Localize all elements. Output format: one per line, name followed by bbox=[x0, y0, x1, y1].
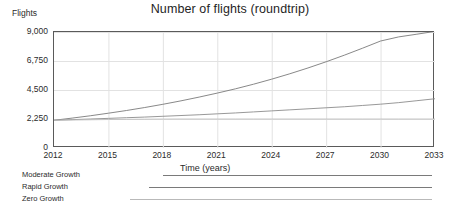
x-axis-tick: 2033 bbox=[414, 150, 454, 160]
x-axis-tick: 2021 bbox=[196, 150, 236, 160]
legend-row[interactable]: Rapid Growth bbox=[0, 182, 457, 194]
legend-label: Zero Growth bbox=[22, 194, 64, 204]
y-axis-title: Flights bbox=[12, 8, 37, 18]
series-line bbox=[54, 99, 435, 121]
y-axis-tick: 6,750 bbox=[2, 55, 48, 65]
y-axis-tick: 2,250 bbox=[2, 113, 48, 123]
x-axis-tick: 2030 bbox=[360, 150, 400, 160]
plot-area bbox=[53, 31, 434, 147]
legend-line-sample bbox=[130, 199, 432, 200]
legend-label: Moderate Growth bbox=[22, 170, 80, 180]
y-axis-tick: 9,000 bbox=[2, 26, 48, 36]
legend-line-sample bbox=[163, 175, 432, 176]
x-axis-tick: 2024 bbox=[251, 150, 291, 160]
y-axis-tick: 4,500 bbox=[2, 84, 48, 94]
x-axis-tick: 2015 bbox=[87, 150, 127, 160]
x-axis-tick: 2027 bbox=[305, 150, 345, 160]
legend-row[interactable]: Zero Growth bbox=[0, 194, 457, 206]
series-lines bbox=[54, 32, 435, 148]
x-axis-tick: 2012 bbox=[33, 150, 73, 160]
chart-legend: Moderate GrowthRapid GrowthZero Growth bbox=[0, 170, 457, 214]
series-line bbox=[54, 119, 435, 120]
legend-row[interactable]: Moderate Growth bbox=[0, 170, 457, 182]
legend-label: Rapid Growth bbox=[22, 182, 68, 192]
series-line bbox=[54, 32, 435, 120]
chart-title: Number of flights (roundtrip) bbox=[100, 2, 360, 16]
chart-container: Number of flights (roundtrip) Flights 02… bbox=[0, 0, 457, 214]
x-axis-tick: 2018 bbox=[142, 150, 182, 160]
legend-line-sample bbox=[149, 187, 432, 188]
